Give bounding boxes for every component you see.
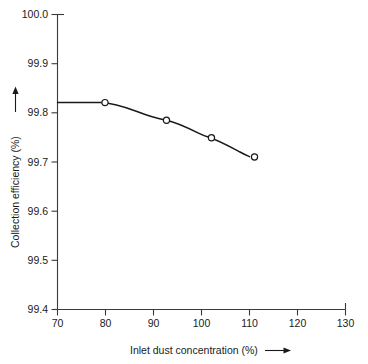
x-tick-label-0: 70 bbox=[52, 317, 64, 329]
x-tick-label-3: 100 bbox=[193, 317, 211, 329]
x-tick-label-6: 130 bbox=[337, 317, 355, 329]
chart-figure: 100.0 99.9 99.8 99.7 99.6 99.5 99.4 70 8… bbox=[0, 0, 368, 364]
line-chart-canvas: 100.0 99.9 99.8 99.7 99.6 99.5 99.4 70 8… bbox=[0, 0, 368, 364]
x-tick-label-4: 110 bbox=[241, 317, 258, 329]
y-axis-title: Collection efficiency (%) bbox=[9, 136, 21, 248]
y-tick-label-4: 99.6 bbox=[28, 205, 49, 217]
data-point-110 bbox=[251, 154, 257, 160]
y-tick-label-3: 99.7 bbox=[28, 156, 49, 168]
y-tick-label-6: 99.4 bbox=[28, 303, 49, 315]
data-point-92.5 bbox=[163, 117, 169, 123]
x-tick-label-1: 80 bbox=[100, 317, 112, 329]
x-axis-title: Inlet dust concentration (%) bbox=[130, 344, 258, 356]
x-tick-label-2: 90 bbox=[148, 317, 160, 329]
y-tick-label-0: 100.0 bbox=[22, 8, 48, 20]
data-point-101.5 bbox=[208, 135, 214, 141]
data-point-80 bbox=[102, 100, 108, 106]
y-tick-label-5: 99.5 bbox=[28, 254, 49, 266]
y-tick-label-2: 99.8 bbox=[28, 106, 49, 118]
x-tick-label-5: 120 bbox=[289, 317, 307, 329]
y-tick-label-1: 99.9 bbox=[28, 57, 49, 69]
